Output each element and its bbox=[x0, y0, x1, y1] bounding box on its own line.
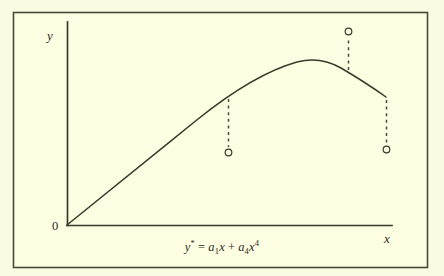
y-axis-label: y bbox=[45, 28, 53, 43]
caption-coefficient-1: a bbox=[208, 240, 214, 254]
figure-root: y x 0 y*=a1x+a4x4 bbox=[0, 0, 444, 276]
caption-coefficient-1-subscript: 1 bbox=[215, 246, 219, 256]
caption-lhs-variable: y bbox=[185, 240, 191, 254]
caption-star-superscript: * bbox=[191, 238, 195, 248]
caption-variable-2: x bbox=[249, 240, 255, 254]
figure-border-frame bbox=[14, 13, 428, 268]
caption-coefficient-2-subscript: 4 bbox=[245, 246, 249, 256]
caption-equals-sign: = bbox=[195, 240, 208, 254]
equation-caption: y*=a1x+a4x4 bbox=[0, 240, 444, 255]
left-marker-circle-icon bbox=[225, 149, 232, 156]
origin-label: 0 bbox=[52, 219, 58, 233]
caption-plus-sign: + bbox=[225, 240, 238, 254]
figure-canvas: y x 0 bbox=[0, 0, 444, 276]
caption-coefficient-2: a bbox=[238, 240, 244, 254]
right-marker-circle-icon bbox=[383, 146, 390, 153]
caption-variable-2-exponent: 4 bbox=[255, 238, 259, 248]
peak-marker-circle-icon bbox=[345, 28, 352, 35]
caption-variable-1: x bbox=[219, 240, 225, 254]
